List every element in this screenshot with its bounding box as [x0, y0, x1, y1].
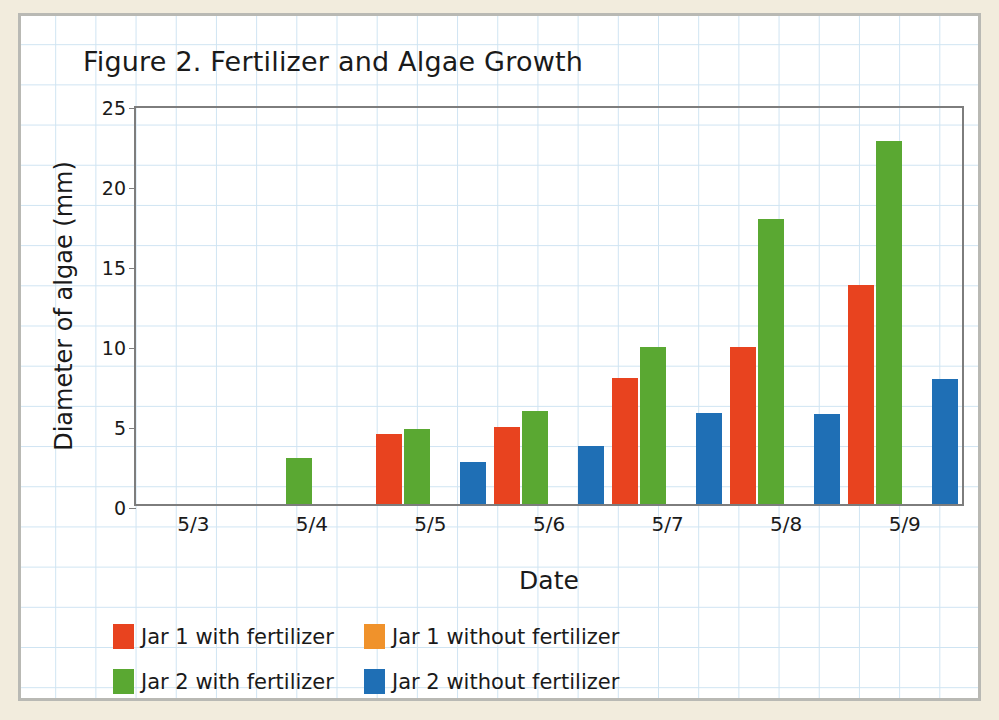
- y-axis-title-label: Diameter of algae (mm): [50, 161, 78, 451]
- y-tick-label: 5: [114, 417, 126, 439]
- bar: [460, 462, 486, 504]
- legend-label: Jar 2 without fertilizer: [392, 670, 619, 694]
- y-tick-label: 20: [102, 177, 126, 199]
- y-tick-label: 10: [102, 337, 126, 359]
- plot-area: 0510152025: [134, 106, 964, 506]
- legend-label: Jar 1 without fertilizer: [392, 625, 619, 649]
- x-axis-title: Date: [134, 566, 964, 595]
- y-tick-label: 0: [114, 497, 126, 519]
- y-tick-mark: [129, 188, 136, 189]
- bar: [578, 446, 604, 504]
- bar-group-5-8: [726, 108, 844, 504]
- y-tick-mark: [129, 348, 136, 349]
- bar-group-5-7: [608, 108, 726, 504]
- bar-group-5-5: [372, 108, 490, 504]
- chart-title: Figure 2. Fertilizer and Algae Growth: [83, 46, 583, 77]
- y-axis-title: Diameter of algae (mm): [49, 106, 79, 506]
- legend-swatch-icon: [364, 624, 385, 649]
- y-tick-mark: [129, 428, 136, 429]
- bar-chart: Figure 2. Fertilizer and Algae Growth Di…: [21, 16, 978, 698]
- legend-entry[interactable]: Jar 2 without fertilizer: [364, 669, 619, 694]
- paper-sheet: Figure 2. Fertilizer and Algae Growth Di…: [18, 13, 981, 701]
- bar: [696, 413, 722, 504]
- x-tick-label: 5/3: [134, 512, 253, 536]
- legend-swatch-icon: [364, 669, 385, 694]
- bar-group-5-3: [136, 108, 254, 504]
- bar: [522, 411, 548, 504]
- bar: [848, 285, 874, 504]
- bar-group-5-4: [254, 108, 372, 504]
- x-tick-label: 5/5: [371, 512, 490, 536]
- x-tick-label: 5/7: [608, 512, 727, 536]
- y-tick-mark: [129, 508, 136, 509]
- bar-group-5-9: [844, 108, 962, 504]
- x-axis-tick-labels: 5/35/45/55/65/75/85/9: [134, 512, 964, 536]
- x-tick-label: 5/6: [490, 512, 609, 536]
- y-tick-label: 15: [102, 257, 126, 279]
- y-tick-label: 25: [102, 97, 126, 119]
- x-tick-label: 5/9: [845, 512, 964, 536]
- y-tick-mark: [129, 108, 136, 109]
- bar: [758, 219, 784, 504]
- legend-swatch-icon: [113, 624, 134, 649]
- bar: [932, 379, 958, 504]
- x-tick-label: 5/8: [727, 512, 846, 536]
- bar: [730, 347, 756, 504]
- legend-label: Jar 2 with fertilizer: [141, 670, 334, 694]
- bar: [376, 434, 402, 504]
- y-tick-mark: [129, 268, 136, 269]
- bar: [612, 378, 638, 504]
- chart-legend: Jar 1 with fertilizerJar 1 without ferti…: [113, 624, 619, 694]
- legend-label: Jar 1 with fertilizer: [141, 625, 334, 649]
- legend-swatch-icon: [113, 669, 134, 694]
- bars-layer: [136, 108, 962, 504]
- bar: [494, 427, 520, 504]
- bar: [876, 141, 902, 504]
- bar: [286, 458, 312, 504]
- legend-entry[interactable]: Jar 2 with fertilizer: [113, 669, 348, 694]
- bar: [814, 414, 840, 504]
- x-tick-label: 5/4: [253, 512, 372, 536]
- legend-entry[interactable]: Jar 1 with fertilizer: [113, 624, 348, 649]
- legend-entry[interactable]: Jar 1 without fertilizer: [364, 624, 619, 649]
- bar: [404, 429, 430, 504]
- bar-group-5-6: [490, 108, 608, 504]
- bar: [640, 347, 666, 504]
